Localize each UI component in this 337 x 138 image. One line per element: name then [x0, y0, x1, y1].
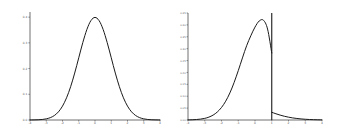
x-ticklabel: 0 [254, 121, 256, 125]
right-plot-svg: 0.000.050.100.150.200.250.300.350.400.45… [168, 0, 337, 138]
y-ticklabel: 0.1 [23, 92, 28, 96]
y-ticklabel: 0.05 [180, 107, 186, 110]
right-y-ticklabels: 0.000.050.100.150.200.250.300.350.400.45 [180, 12, 186, 122]
x-ticklabel: 3 [304, 121, 306, 125]
x-ticklabel: 2 [127, 121, 129, 125]
y-ticklabel: 0.00 [180, 119, 186, 122]
left-plot-axes: 0.00.10.20.30.4 -4-3-2-101234 [23, 12, 161, 125]
y-ticklabel: 0.45 [180, 12, 186, 15]
y-ticklabel: 0.15 [180, 83, 186, 86]
y-ticklabel: 0.20 [180, 72, 186, 75]
right-x-ticklabels: -4-3-2-101234 [187, 121, 324, 125]
x-ticklabel: -1 [237, 121, 240, 125]
figure-canvas: 0.00.10.20.30.4 -4-3-2-101234 0.000.050.… [0, 0, 337, 138]
right-curve-left-branch [188, 20, 272, 120]
x-ticklabel: 1 [271, 121, 273, 125]
y-ticklabel: 0.0 [23, 118, 28, 122]
x-ticklabel: 1 [110, 121, 112, 125]
right-axis-spines [188, 13, 322, 120]
y-ticklabel: 0.30 [180, 48, 186, 51]
right-plot-axes: 0.000.050.100.150.200.250.300.350.400.45… [180, 12, 323, 125]
x-ticklabel: -1 [77, 121, 80, 125]
x-ticklabel: -4 [29, 121, 32, 125]
y-ticklabel: 0.25 [180, 60, 186, 63]
x-ticklabel: 3 [143, 121, 145, 125]
x-ticklabel: -2 [61, 121, 64, 125]
x-ticklabel: 2 [288, 121, 290, 125]
x-ticklabel: 4 [321, 121, 323, 125]
left-gaussian-curve [30, 17, 160, 120]
x-ticklabel: -3 [203, 121, 206, 125]
y-ticklabel: 0.40 [180, 24, 186, 27]
x-ticklabel: -3 [45, 121, 48, 125]
left-axis-spines [30, 12, 160, 120]
y-ticklabel: 0.2 [23, 67, 28, 71]
x-ticklabel: -2 [220, 121, 223, 125]
chart-panel-left: 0.00.10.20.30.4 -4-3-2-101234 [0, 0, 168, 138]
y-ticklabel: 0.35 [180, 36, 186, 39]
y-ticklabel: 0.4 [23, 15, 28, 19]
left-x-ticklabels: -4-3-2-101234 [29, 121, 162, 125]
x-ticklabel: 4 [159, 121, 161, 125]
left-plot-svg: 0.00.10.20.30.4 -4-3-2-101234 [0, 0, 168, 138]
chart-panel-right: 0.000.050.100.150.200.250.300.350.400.45… [168, 0, 337, 138]
y-ticklabel: 0.3 [23, 41, 28, 45]
x-ticklabel: -4 [187, 121, 190, 125]
x-ticklabel: 0 [94, 121, 96, 125]
y-ticklabel: 0.10 [180, 95, 186, 98]
left-y-ticklabels: 0.00.10.20.30.4 [23, 15, 28, 122]
right-curve-right-branch [272, 112, 322, 120]
